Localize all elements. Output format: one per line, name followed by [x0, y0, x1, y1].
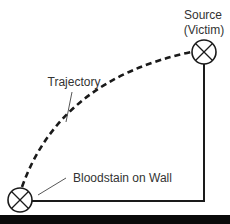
victim-label: (Victim)	[184, 23, 224, 37]
bloodstain-leader-line	[38, 178, 66, 195]
bottom-border-bar	[0, 215, 230, 224]
trajectory-leader-line	[66, 92, 72, 122]
bloodstain-label: Bloodstain on Wall	[73, 171, 172, 185]
source-marker-icon	[192, 40, 216, 64]
trajectory-label: Trajectory	[48, 75, 101, 89]
bloodstain-marker-icon	[8, 188, 32, 212]
source-label: Source	[184, 8, 222, 22]
bloodstain-trajectory-diagram: Source (Victim) Trajectory Bloodstain on…	[0, 0, 230, 224]
trajectory-curve	[22, 52, 191, 187]
